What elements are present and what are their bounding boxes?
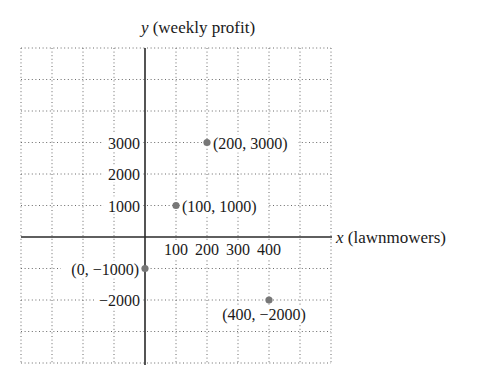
data-point <box>203 139 210 146</box>
x-tick-label: 300 <box>226 241 250 258</box>
x-tick-label: 400 <box>257 241 281 258</box>
data-point-label: (200, 3000) <box>213 135 288 153</box>
y-axis-var: y <box>139 18 149 37</box>
x-axis-desc: (lawnmowers) <box>344 228 446 247</box>
data-point-label: (100, 1000) <box>182 198 257 216</box>
y-tick-label: 3000 <box>108 135 140 152</box>
y-axis-desc: (weekly profit) <box>148 18 255 37</box>
data-point-label: (400, −2000) <box>222 306 306 324</box>
y-tick-label: −2000 <box>99 292 140 309</box>
x-tick-label: 200 <box>195 241 219 258</box>
y-axis-label: y (weekly profit) <box>139 18 255 37</box>
tick-labels: 100200300400300020001000−2000 <box>95 134 284 310</box>
y-axis-title: y (weekly profit) <box>139 18 255 37</box>
x-axis-label: x (lawnmowers) <box>335 228 446 247</box>
x-axis-title: x (lawnmowers) <box>335 228 446 247</box>
y-tick-label: 1000 <box>108 198 140 215</box>
scatter-chart: y (weekly profit) x (lawnmowers) 1002003… <box>0 0 491 387</box>
x-tick-label: 100 <box>164 241 188 258</box>
data-point <box>172 202 179 209</box>
y-tick-label: 2000 <box>108 166 140 183</box>
data-point <box>265 296 272 303</box>
data-point-label: (0, −1000) <box>71 261 139 279</box>
data-point <box>141 265 148 272</box>
